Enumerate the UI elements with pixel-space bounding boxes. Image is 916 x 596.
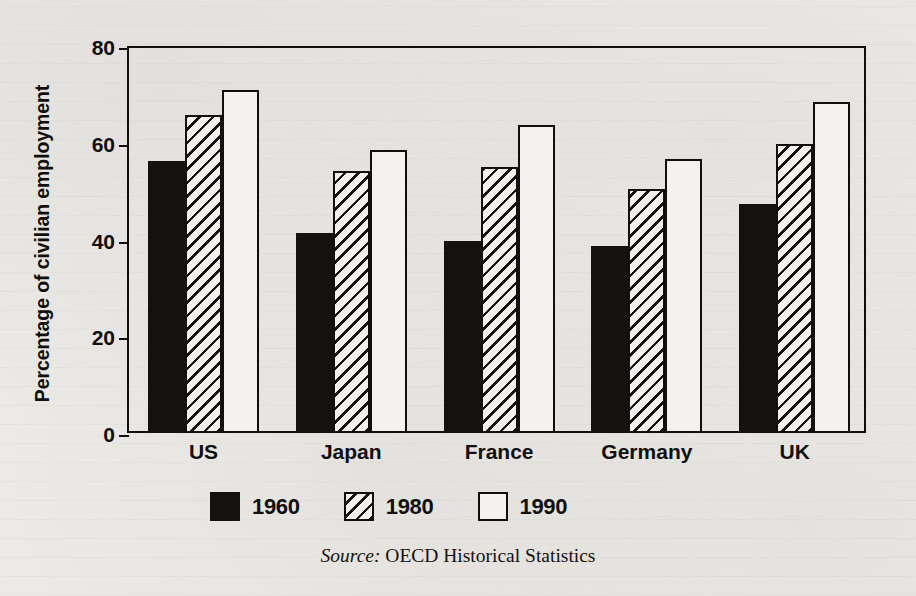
x-axis-label-france: France: [444, 440, 555, 464]
bar-germany-1980: [628, 189, 665, 433]
bar-group: [444, 46, 555, 433]
bar-us-1980: [185, 115, 222, 433]
bar-uk-1960: [739, 204, 776, 433]
bar-germany-1960: [591, 246, 628, 433]
x-axis-label-us: US: [148, 440, 259, 464]
x-axis-category-labels: USJapanFranceGermanyUK: [127, 440, 866, 472]
bar-france-1960: [444, 241, 481, 433]
source-text: OECD Historical Statistics: [385, 545, 595, 566]
y-axis-title: Percentage of civilian employment: [31, 44, 54, 444]
y-axis-tick-label: 0: [103, 423, 115, 447]
bar-japan-1960: [296, 233, 333, 433]
bar-group: [739, 46, 850, 433]
source-label: Source:: [321, 545, 381, 566]
y-axis-tick-label: 80: [92, 36, 115, 60]
y-axis-tick-label: 20: [92, 326, 115, 350]
bar-japan-1990: [370, 150, 407, 433]
bar-france-1980: [481, 167, 518, 433]
bar-group: [591, 46, 702, 433]
source-caption: Source: OECD Historical Statistics: [0, 545, 916, 567]
bar-france-1990: [518, 125, 555, 433]
x-axis-label-germany: Germany: [591, 440, 702, 464]
bar-group: [148, 46, 259, 433]
legend-entry-1990: 1990: [478, 492, 568, 521]
bar-group: [296, 46, 407, 433]
legend-swatch-1960: [210, 492, 240, 521]
y-axis-tick-label: 60: [92, 133, 115, 157]
chart-legend: 196019801990: [210, 492, 567, 521]
legend-label-1990: 1990: [520, 494, 568, 520]
legend-swatch-1990: [478, 492, 508, 521]
y-axis-tick-label: 40: [92, 230, 115, 254]
bar-chart-figure: Percentage of civilian employment 020406…: [0, 0, 916, 596]
bar-germany-1990: [665, 159, 702, 433]
bar-japan-1980: [333, 171, 370, 433]
legend-entry-1980: 1980: [344, 492, 434, 521]
bars-layer: [127, 46, 866, 433]
legend-entry-1960: 1960: [210, 492, 300, 521]
x-axis-label-japan: Japan: [296, 440, 407, 464]
bar-uk-1990: [813, 102, 850, 433]
y-axis-tick: [119, 435, 129, 437]
bar-us-1990: [222, 90, 259, 433]
legend-label-1980: 1980: [386, 494, 434, 520]
legend-label-1960: 1960: [252, 494, 300, 520]
x-axis-label-uk: UK: [739, 440, 850, 464]
legend-swatch-1980: [344, 492, 374, 521]
bar-uk-1980: [776, 144, 813, 433]
bar-us-1960: [148, 161, 185, 433]
